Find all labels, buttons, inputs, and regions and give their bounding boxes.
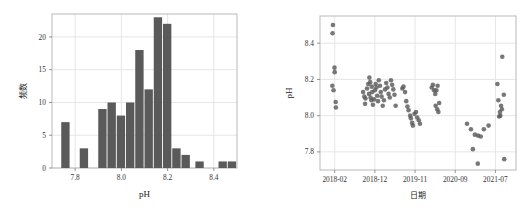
scatter-plot-border	[320, 16, 516, 170]
histogram-x-axis-title: pH	[139, 189, 151, 199]
scatter-point	[500, 54, 505, 59]
x-tick-label: 8.4	[209, 173, 219, 182]
scatter-point	[486, 123, 491, 128]
y-tick-label: 10	[39, 98, 47, 107]
scatter-point	[332, 70, 337, 75]
scatter-point	[382, 98, 387, 103]
scatter-point	[391, 87, 396, 92]
scatter-point	[331, 88, 336, 93]
ph-timeseries-svg: 7.88.08.28.42018-022018-122019-112020-09…	[264, 0, 529, 211]
scatter-point	[434, 88, 439, 93]
histogram-bar	[228, 161, 236, 168]
y-tick-label: 8.4	[305, 39, 315, 48]
x-tick-label: 2018-02	[322, 175, 347, 184]
histogram-bar	[108, 102, 116, 168]
scatter-point	[403, 90, 408, 95]
scatter-point	[332, 65, 337, 70]
histogram-bar	[117, 116, 125, 168]
y-tick-label: 5	[42, 131, 46, 140]
scatter-point	[368, 80, 373, 85]
scatter-point	[361, 90, 366, 95]
histogram-bar	[182, 155, 190, 168]
histogram-bar	[172, 148, 180, 168]
scatter-point	[365, 86, 370, 91]
scatter-point	[371, 102, 376, 107]
scatter-point	[469, 127, 474, 132]
histogram-bar	[61, 122, 69, 168]
scatter-point	[363, 102, 368, 107]
histogram-bar	[154, 17, 162, 168]
scatter-point	[390, 83, 395, 88]
scatter-point	[333, 100, 338, 105]
y-tick-label: 8.0	[305, 111, 315, 120]
scatter-point	[471, 147, 476, 152]
scatter-point	[384, 81, 389, 86]
histogram-bar	[145, 89, 153, 168]
scatter-x-tick-labels: 2018-022018-122019-112020-092021-07	[322, 170, 508, 184]
scatter-point	[380, 103, 385, 108]
scatter-point	[376, 99, 381, 104]
x-tick-label: 2021-07	[483, 175, 508, 184]
two-panel-ph-figure: 051015207.88.08.28.4pH频数 7.88.08.28.4201…	[0, 0, 529, 211]
ph-histogram-svg: 051015207.88.08.28.4pH频数	[0, 0, 265, 211]
scatter-point	[363, 96, 368, 101]
histogram-x-tick-labels: 7.88.08.28.4	[71, 168, 219, 182]
scatter-point	[401, 84, 406, 89]
x-tick-label: 2020-09	[443, 175, 468, 184]
y-tick-label: 15	[39, 65, 47, 74]
histogram-bar	[80, 148, 88, 168]
scatter-point	[414, 110, 419, 115]
scatter-point	[406, 108, 411, 113]
scatter-point	[437, 101, 442, 106]
x-tick-label: 2018-12	[363, 175, 388, 184]
scatter-y-tick-labels: 7.88.08.28.4	[305, 39, 320, 157]
scatter-point	[378, 90, 383, 95]
histogram-bar	[163, 24, 171, 168]
scatter-point	[409, 116, 414, 121]
y-tick-label: 20	[39, 33, 47, 42]
scatter-point	[502, 157, 507, 162]
scatter-point	[495, 82, 500, 87]
histogram-bars	[61, 17, 236, 168]
scatter-point	[475, 161, 480, 166]
x-tick-label: 8.0	[117, 173, 127, 182]
scatter-point	[498, 113, 503, 118]
scatter-point	[387, 95, 392, 100]
scatter-point	[334, 105, 339, 110]
x-tick-label: 7.8	[71, 173, 81, 182]
histogram-y-tick-labels: 05101520	[39, 33, 52, 173]
scatter-point	[331, 23, 336, 28]
histogram-bar	[219, 161, 227, 168]
histogram-y-axis-title: 频数	[18, 83, 28, 99]
scatter-gridlines	[320, 16, 516, 170]
scatter-point	[378, 83, 383, 88]
scatter-point	[436, 110, 441, 115]
scatter-point	[372, 97, 377, 102]
scatter-points	[330, 23, 506, 166]
scatter-point	[465, 122, 470, 127]
ph-timeseries-panel: 7.88.08.28.42018-022018-122019-112020-09…	[264, 0, 529, 211]
x-tick-label: 8.2	[163, 173, 173, 182]
scatter-point	[377, 78, 382, 83]
y-tick-label: 7.8	[305, 147, 315, 156]
scatter-point	[367, 75, 372, 80]
scatter-point	[330, 31, 335, 36]
x-tick-label: 2019-11	[403, 175, 428, 184]
scatter-point	[330, 83, 335, 88]
y-tick-label: 0	[42, 164, 46, 173]
histogram-bar	[195, 161, 203, 168]
y-tick-label: 8.2	[305, 75, 315, 84]
scatter-point	[431, 83, 436, 88]
scatter-point	[482, 127, 487, 132]
scatter-point	[404, 99, 409, 104]
histogram-bar	[126, 102, 134, 168]
scatter-point	[478, 134, 483, 139]
ph-histogram-panel: 051015207.88.08.28.4pH频数	[0, 0, 265, 211]
scatter-point	[375, 93, 380, 98]
scatter-x-axis-title: 日期	[410, 191, 426, 200]
scatter-point	[496, 98, 501, 103]
scatter-point	[418, 122, 423, 127]
histogram-bar	[98, 109, 106, 168]
scatter-point	[392, 93, 397, 98]
scatter-y-axis-title: pH	[284, 87, 294, 99]
